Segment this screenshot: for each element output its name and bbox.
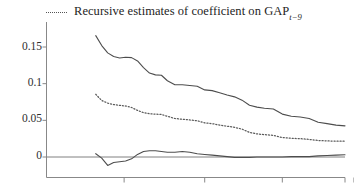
legend-label-subscript: t−9 <box>289 12 302 22</box>
y-tick-label-0.15: 0.15 <box>2 41 42 53</box>
chart-legend: Recursive estimates of coefficient on GA… <box>46 3 302 22</box>
legend-dotted-line-icon <box>46 9 67 16</box>
y-tick-label-0.05: 0.05 <box>2 113 42 125</box>
series-lower-confidence-band <box>96 151 345 166</box>
series-upper-confidence-band <box>96 36 345 126</box>
x-axis-ticks <box>124 178 354 183</box>
y-tick-label-0: 0 <box>2 150 42 162</box>
legend-label-text: Recursive estimates of coefficient on GA… <box>74 4 289 18</box>
plot-canvas <box>0 0 354 191</box>
y-axis-ticks <box>43 47 47 157</box>
legend-label: Recursive estimates of coefficient on GA… <box>74 5 302 20</box>
y-tick-label-0.1: 0.1 <box>2 77 42 89</box>
data-series-group <box>96 36 345 166</box>
axis-lines <box>47 22 346 178</box>
recursive-estimates-chart: Recursive estimates of coefficient on GA… <box>0 0 354 191</box>
